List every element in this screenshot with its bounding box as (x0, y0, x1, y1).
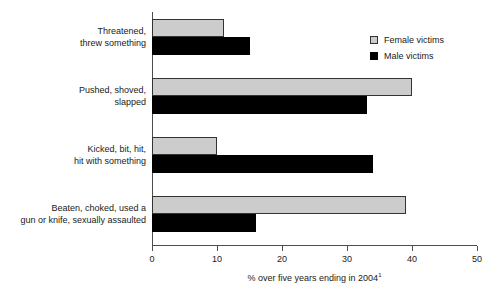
x-axis-tick-label: 50 (462, 254, 486, 265)
x-axis-tick-label: 0 (137, 254, 167, 265)
category-label-line: Threatened, (0, 25, 146, 37)
category-label: Beaten, choked, used agun or knife, sexu… (0, 202, 146, 226)
x-axis-line (152, 245, 477, 246)
category-label-line: Pushed, shoved, (0, 84, 146, 96)
x-axis-tick (347, 246, 348, 251)
legend-item-male: Male victims (370, 49, 444, 63)
x-axis-tick (152, 246, 153, 251)
female-swatch-icon (370, 36, 378, 44)
x-axis-tick-label: 10 (202, 254, 232, 265)
bar-female (152, 19, 224, 37)
category-label-line: Kicked, bit, hit, (0, 143, 146, 155)
bar-male (152, 96, 367, 114)
x-axis-tick (282, 246, 283, 251)
x-axis-tick-label: 30 (332, 254, 362, 265)
category-label-line: Beaten, choked, used a (0, 202, 146, 214)
bar-male (152, 214, 256, 232)
x-axis-tick (477, 246, 478, 251)
category-label-line: threw something (0, 37, 146, 49)
legend-item-female: Female victims (370, 33, 444, 47)
category-label: Pushed, shoved,slapped (0, 84, 146, 108)
x-axis-tick-label: 20 (267, 254, 297, 265)
category-label-line: hit with something (0, 155, 146, 167)
category-label: Threatened,threw something (0, 25, 146, 49)
x-axis-title-footnote: 1 (378, 272, 381, 278)
legend: Female victims Male victims (370, 33, 444, 65)
legend-label: Male victims (384, 51, 434, 61)
legend-label: Female victims (384, 35, 444, 45)
bar-female (152, 196, 406, 214)
bar-chart: 0 10 20 30 40 50 % over five years endin… (0, 0, 486, 297)
bar-male (152, 37, 250, 55)
bar-female (152, 137, 217, 155)
x-axis-tick (412, 246, 413, 251)
x-axis-title: % over five years ending in 20041 (152, 272, 477, 283)
male-swatch-icon (370, 52, 378, 60)
x-axis-title-text: % over five years ending in 2004 (248, 273, 379, 283)
bar-female (152, 78, 412, 96)
category-label-line: gun or knife, sexually assaulted (0, 214, 146, 226)
x-axis-tick (217, 246, 218, 251)
x-axis-tick-label: 40 (397, 254, 427, 265)
category-label-line: slapped (0, 96, 146, 108)
bar-male (152, 155, 373, 173)
category-label: Kicked, bit, hit,hit with something (0, 143, 146, 167)
